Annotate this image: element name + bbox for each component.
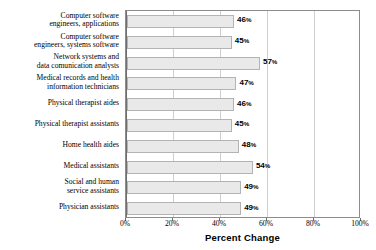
value-number: 57 bbox=[263, 57, 272, 66]
bar-value-label: 46% bbox=[237, 100, 251, 108]
category-label-line: engineers, systems software bbox=[0, 41, 119, 50]
bar bbox=[127, 140, 239, 153]
category-label: Social and humanservice assistants bbox=[0, 178, 119, 195]
bar-value-label: 48% bbox=[242, 141, 256, 149]
value-number: 54 bbox=[256, 161, 265, 170]
category-label-line: engineers, applications bbox=[0, 20, 119, 29]
bar-value-label: 54% bbox=[256, 162, 270, 170]
bar-value-label: 49% bbox=[244, 204, 258, 212]
x-axis-title: Percent Change bbox=[125, 232, 360, 243]
category-label: Medical records and healthinformation te… bbox=[0, 74, 119, 91]
bar bbox=[127, 181, 241, 194]
chart-title-remnant bbox=[0, 0, 376, 4]
percent-sign: % bbox=[253, 183, 259, 190]
category-label-line: Physical therapist assistants bbox=[0, 120, 119, 129]
value-number: 49 bbox=[244, 203, 253, 212]
percent-sign: % bbox=[246, 16, 252, 23]
value-number: 48 bbox=[242, 140, 251, 149]
category-label: Physical therapist assistants bbox=[0, 120, 119, 129]
bar-value-label: 45% bbox=[235, 37, 249, 45]
value-number: 46 bbox=[237, 15, 246, 24]
percent-sign: % bbox=[272, 58, 278, 65]
category-label: Home health aides bbox=[0, 141, 119, 150]
bar-value-label: 46% bbox=[237, 16, 251, 24]
gridline bbox=[267, 11, 268, 217]
value-number: 49 bbox=[244, 182, 253, 191]
x-tick-label: 40% bbox=[212, 219, 226, 228]
bar bbox=[127, 57, 260, 70]
category-label-line: Home health aides bbox=[0, 141, 119, 150]
category-label-line: Physician assistants bbox=[0, 203, 119, 212]
bar-value-label: 57% bbox=[263, 58, 277, 66]
bar-value-label: 49% bbox=[244, 183, 258, 191]
category-label-line: Medical assistants bbox=[0, 162, 119, 171]
bar bbox=[127, 36, 232, 49]
bar bbox=[127, 119, 232, 132]
category-label: Medical assistants bbox=[0, 162, 119, 171]
value-number: 45 bbox=[235, 36, 244, 45]
category-label-line: information technicians bbox=[0, 83, 119, 92]
percent-sign: % bbox=[248, 79, 254, 86]
x-tick-label: 20% bbox=[165, 219, 179, 228]
value-number: 46 bbox=[237, 99, 246, 108]
category-label: Physician assistants bbox=[0, 203, 119, 212]
category-label-line: data comunication analysts bbox=[0, 62, 119, 71]
value-number: 47 bbox=[239, 78, 248, 87]
percent-sign: % bbox=[244, 37, 250, 44]
percent-sign: % bbox=[253, 204, 259, 211]
percent-sign: % bbox=[265, 162, 271, 169]
bar bbox=[127, 202, 241, 215]
x-tick-label: 100% bbox=[351, 219, 369, 228]
x-tick-label: 0% bbox=[120, 219, 130, 228]
category-axis-labels: Computer softwareengineers, applications… bbox=[0, 10, 122, 218]
percent-sign: % bbox=[246, 100, 252, 107]
x-tick-label: 80% bbox=[306, 219, 320, 228]
x-tick-label: 60% bbox=[259, 219, 273, 228]
category-label: Computer softwareengineers, applications bbox=[0, 12, 119, 29]
bar-value-label: 45% bbox=[235, 120, 249, 128]
category-label: Physical therapist aides bbox=[0, 99, 119, 108]
category-label-line: service assistants bbox=[0, 187, 119, 196]
percent-sign: % bbox=[251, 141, 257, 148]
bar-value-label: 47% bbox=[239, 79, 253, 87]
percent-sign: % bbox=[244, 120, 250, 127]
category-label: Network systems anddata comunication ana… bbox=[0, 53, 119, 70]
category-label-line: Physical therapist aides bbox=[0, 99, 119, 108]
value-number: 45 bbox=[235, 119, 244, 128]
gridline bbox=[314, 11, 315, 217]
bar bbox=[127, 77, 236, 90]
bar-chart: Computer softwareengineers, applications… bbox=[0, 0, 376, 250]
bar bbox=[127, 98, 234, 111]
bar bbox=[127, 15, 234, 28]
bar bbox=[127, 161, 253, 174]
category-label: Computer softwareengineers, systems soft… bbox=[0, 33, 119, 50]
